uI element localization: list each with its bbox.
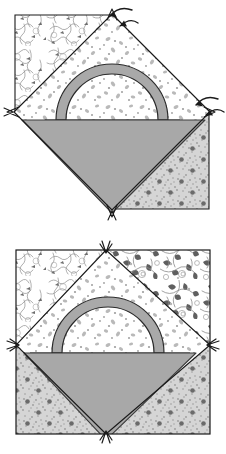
diagram-canvas: Quilt Block Assembly Diagram Square rota… [0,0,226,454]
panel-bottom [7,241,219,443]
diagram-svg [0,0,226,454]
panel-top [4,8,224,220]
